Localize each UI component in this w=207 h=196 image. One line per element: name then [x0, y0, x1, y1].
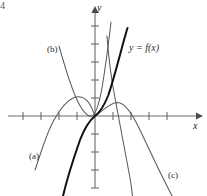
plot-canvas	[0, 0, 207, 196]
curve-label-a: (a)	[29, 152, 39, 161]
function-label: y = f(x)	[129, 43, 159, 53]
x-axis-arrowhead	[196, 112, 203, 119]
figure-container: 4	[0, 0, 207, 196]
curve-a-path	[35, 97, 95, 170]
curve-label-c: (c)	[168, 171, 178, 180]
curve-label-b: (b)	[47, 45, 58, 54]
x-axis-label: x	[193, 121, 197, 131]
y-axis-label: y	[97, 3, 101, 13]
